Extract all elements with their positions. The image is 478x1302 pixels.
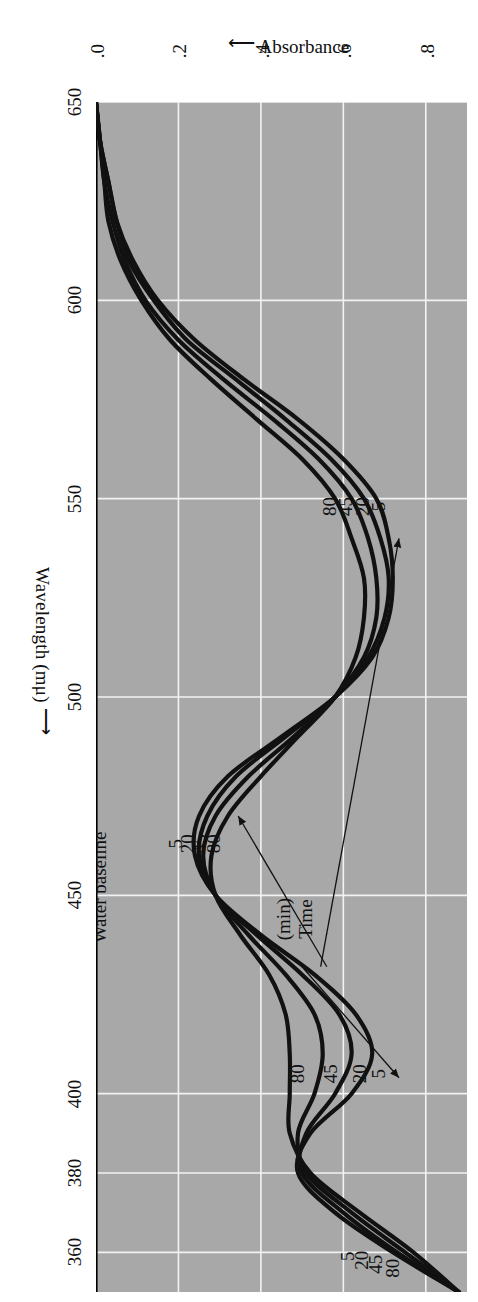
y-axis-title: ⟵ Absorbance xyxy=(139,35,439,58)
legend-leader-line-3 xyxy=(321,538,399,966)
x-axis-title-text: Wavelength (mμ) xyxy=(32,567,53,703)
figure-page: Water baseline80452055204580804520552045… xyxy=(0,0,478,1302)
legend-title-line2: (min) xyxy=(273,898,295,940)
plot-svg: Water baseline80452055204580804520552045… xyxy=(96,102,467,1292)
plot-annotations: Water baseline80452055204580804520552045… xyxy=(96,497,403,1278)
series-label-80-peak530: 80 xyxy=(319,497,340,516)
series-label-5-top: 5 xyxy=(337,1252,358,1262)
x-tick-450: 450 xyxy=(64,865,86,925)
series-label-20-peak400: 20 xyxy=(349,1064,370,1083)
x-axis-arrow-icon: ⟶ xyxy=(35,708,58,735)
water-baseline-label: Water baseline xyxy=(96,831,110,943)
series-label-80-peak400: 80 xyxy=(287,1064,308,1083)
series-label-5-trough460: 5 xyxy=(165,839,186,849)
x-tick-650: 650 xyxy=(64,72,86,132)
y-tick-p0: .0 xyxy=(87,44,109,90)
absorbance-spectrum-figure: Water baseline80452055204580804520552045… xyxy=(0,0,478,1302)
x-axis-title: Wavelength (mμ) ⟶ xyxy=(31,0,54,1302)
x-tick-500: 500 xyxy=(64,667,86,727)
x-tick-360: 360 xyxy=(64,1222,86,1282)
x-tick-380: 380 xyxy=(64,1143,86,1203)
legend-leader-line-2 xyxy=(238,816,327,967)
x-tick-600: 600 xyxy=(64,270,86,330)
y-axis-title-text: Absorbance xyxy=(258,36,349,57)
gridlines xyxy=(96,102,467,1292)
series-label-45-peak400: 45 xyxy=(320,1064,341,1083)
y-axis-arrow-icon: ⟵ xyxy=(228,31,255,54)
rotated-figure-wrapper: Water baseline80452055204580804520552045… xyxy=(0,0,478,1302)
x-tick-550: 550 xyxy=(64,469,86,529)
plot-panel: Water baseline80452055204580804520552045… xyxy=(96,102,467,1292)
series-label-5-peak400: 5 xyxy=(368,1069,389,1079)
x-tick-400: 400 xyxy=(64,1064,86,1124)
